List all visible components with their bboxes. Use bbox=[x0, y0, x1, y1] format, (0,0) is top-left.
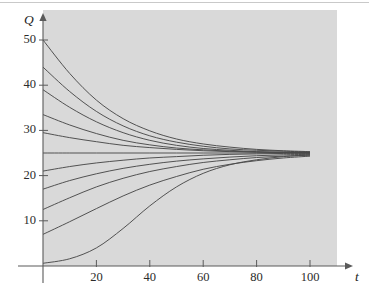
figure-container: 10 20 30 40 50 20 40 60 80 100 Q t bbox=[0, 0, 369, 293]
solution-curve bbox=[43, 90, 310, 153]
x-tick-label: 100 bbox=[294, 270, 326, 285]
y-tick-label: 10 bbox=[0, 213, 36, 228]
solution-curve bbox=[43, 156, 310, 234]
axes-group bbox=[18, 13, 353, 283]
y-tick-label: 20 bbox=[0, 168, 36, 183]
y-tick-label: 40 bbox=[0, 77, 36, 92]
x-tick-label: 40 bbox=[134, 270, 166, 285]
x-tick-label: 60 bbox=[187, 270, 219, 285]
solution-curve bbox=[43, 155, 310, 263]
y-tick-label: 50 bbox=[0, 32, 36, 47]
solution-curve bbox=[43, 40, 310, 152]
solution-curves-group bbox=[43, 40, 310, 263]
solution-curve bbox=[43, 155, 310, 209]
x-tick-label: 80 bbox=[241, 270, 273, 285]
x-axis-arrowhead bbox=[345, 262, 353, 269]
y-tick-label: 30 bbox=[0, 122, 36, 137]
x-axis-label: t bbox=[355, 269, 359, 285]
y-axis-arrowhead bbox=[39, 13, 46, 21]
chart-canvas bbox=[0, 0, 369, 293]
y-axis-label: Q bbox=[24, 12, 34, 28]
solution-curve bbox=[43, 153, 310, 171]
solution-curve bbox=[43, 115, 310, 153]
x-tick-label: 20 bbox=[80, 270, 112, 285]
